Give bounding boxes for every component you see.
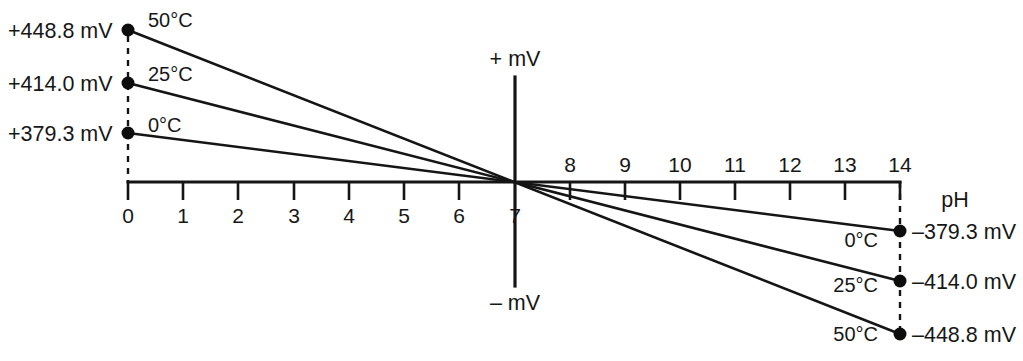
left-temp-label-0c: 0°C [148,114,182,136]
x-axis-ticks-left [128,182,459,200]
x-tick-label-1: 1 [177,204,189,227]
ph-millivolt-chart: +448.8 mV +414.0 mV +379.3 mV 50°C 25°C … [0,0,1023,361]
y-axis-negative-title: – mV [490,291,541,315]
left-value-label-0c: +379.3 mV [8,122,113,146]
x-tick-label-11: 11 [724,153,746,176]
y-axis-positive-title: + mV [490,47,541,71]
left-value-label-50c: +448.8 mV [8,19,113,43]
x-tick-label-10: 10 [668,153,691,176]
x-tick-label-3: 3 [288,204,300,227]
right-temp-label-25c: 25°C [833,274,878,296]
right-temp-label-0c: 0°C [844,229,878,251]
x-tick-label-9: 9 [619,153,631,176]
x-tick-label-2: 2 [232,204,244,227]
right-value-label-50c: –448.8 mV [912,323,1017,347]
right-value-label-25c: –414.0 mV [912,270,1017,294]
x-axis-ticks-right [570,182,900,200]
endpoint-dot-right-0c [894,225,907,238]
endpoint-dot-left-50c [122,24,135,37]
x-tick-label-5: 5 [398,204,410,227]
x-tick-label-13: 13 [833,153,856,176]
x-tick-label-7: 7 [509,204,521,227]
x-tick-label-14: 14 [888,153,912,176]
endpoint-dot-left-0c [122,127,135,140]
right-temp-label-50c: 50°C [833,323,878,345]
x-tick-label-4: 4 [343,204,355,227]
x-tick-label-12: 12 [778,153,801,176]
x-tick-labels-left: 0 1 2 3 4 5 6 7 [122,204,521,227]
chart-canvas: +448.8 mV +414.0 mV +379.3 mV 50°C 25°C … [0,0,1023,361]
x-tick-label-0: 0 [122,204,134,227]
right-value-label-0c: –379.3 mV [912,220,1017,244]
left-value-label-25c: +414.0 mV [8,72,113,96]
endpoint-dot-right-25c [894,275,907,288]
endpoint-dot-left-25c [122,77,135,90]
endpoint-dot-right-50c [894,328,907,341]
left-temp-label-25c: 25°C [148,63,193,85]
x-tick-label-6: 6 [453,204,465,227]
x-axis-title-ph: pH [941,188,968,212]
left-temp-label-50c: 50°C [148,9,193,31]
x-tick-label-8: 8 [564,153,576,176]
x-tick-labels-right: 8 9 10 11 12 13 14 [564,153,912,176]
